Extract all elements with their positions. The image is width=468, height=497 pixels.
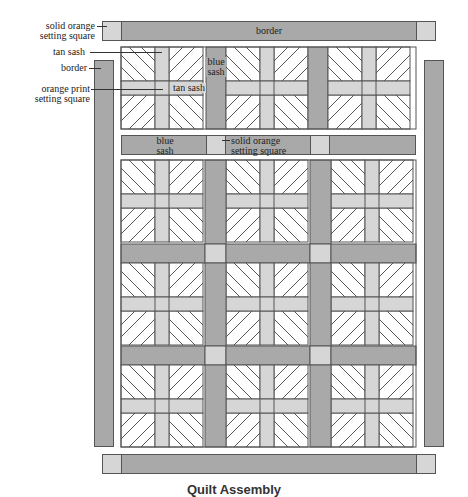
blue-sash-label: blue sash [206, 57, 226, 77]
solid-orange-row-label: solid orange setting square [231, 136, 286, 156]
leader-line [222, 140, 230, 141]
leader-line [97, 26, 107, 27]
figure-caption: Quilt Assembly [0, 482, 468, 497]
leader-line [90, 52, 162, 53]
leader-line [89, 68, 101, 69]
tan-sash-callout: tan sash [53, 47, 85, 57]
leader-line [91, 89, 163, 90]
blue-sash-row-label: blue sash [145, 136, 185, 156]
orange-print-callout: orange print setting square [35, 84, 90, 104]
tan-sash-inline-label: tan sash [172, 83, 206, 93]
border-callout: border [61, 63, 87, 73]
solid-orange-callout: solid orange setting square [40, 21, 95, 41]
